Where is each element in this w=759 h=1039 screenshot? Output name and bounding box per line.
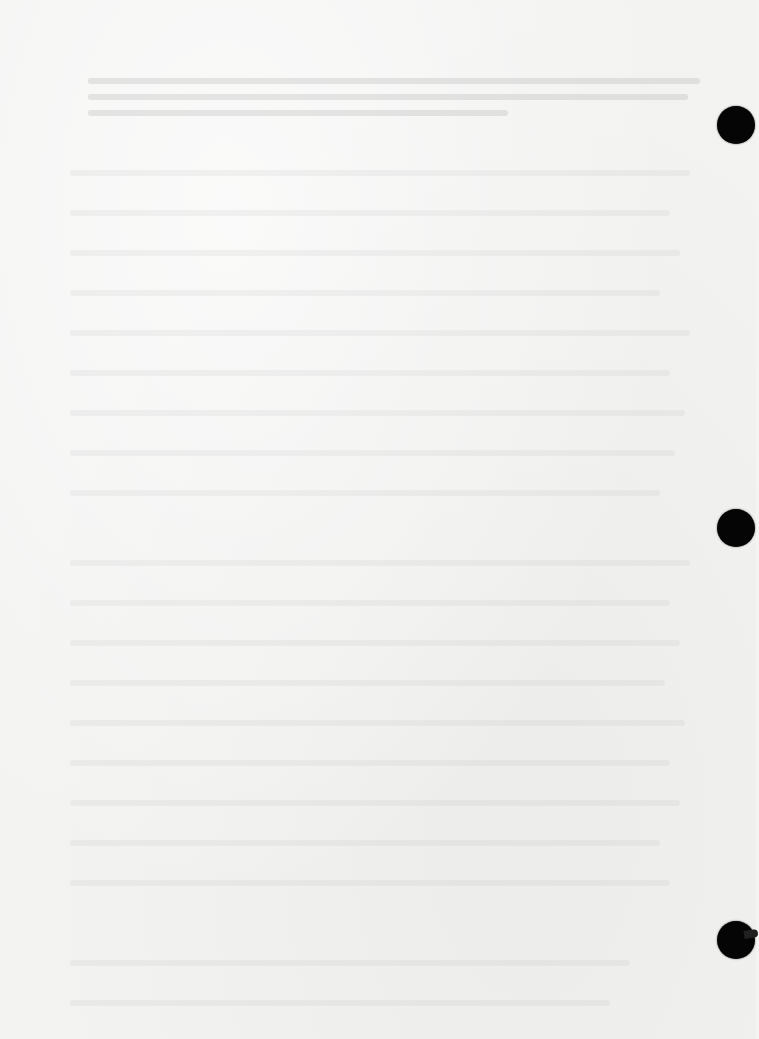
faded-text-line — [70, 290, 660, 296]
faded-text-line — [88, 78, 700, 84]
faded-text-line — [70, 600, 670, 606]
faded-text-line — [70, 720, 685, 726]
faded-text-line — [70, 840, 660, 846]
faded-text-line — [70, 960, 630, 966]
faded-text-line — [70, 640, 680, 646]
faded-text-line — [70, 880, 670, 886]
faded-text-line — [88, 110, 508, 116]
faded-text-line — [70, 560, 690, 566]
faded-text-line — [70, 800, 680, 806]
faded-text-line — [70, 1000, 610, 1006]
faded-text-line — [70, 330, 690, 336]
binder-hole-top — [717, 106, 755, 144]
faded-text-line — [70, 370, 670, 376]
faded-text-line — [70, 170, 690, 176]
faded-text-line — [70, 450, 675, 456]
binder-hole-middle — [717, 509, 755, 547]
binder-hole-bottom — [717, 921, 755, 959]
faded-text-line — [70, 210, 670, 216]
faded-text-line — [70, 410, 685, 416]
faded-text-line — [70, 490, 660, 496]
faded-text-line — [88, 94, 688, 100]
hole-tear-mark — [744, 929, 759, 939]
faded-text-line — [70, 680, 665, 686]
faded-text-line — [70, 250, 680, 256]
faded-text-line — [70, 760, 670, 766]
